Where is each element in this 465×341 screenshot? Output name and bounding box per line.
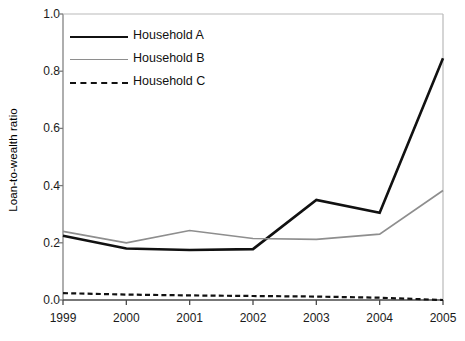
chart-container: Loan-to-wealth ratio 1.0 0.8 0.6 0.4 0.2…	[0, 0, 465, 341]
legend-label-household-b: Household B	[128, 52, 205, 65]
legend-line-icon-household-c	[70, 76, 128, 88]
x-tick-label: 2001	[160, 312, 220, 324]
x-tick-label: 1999	[33, 312, 93, 324]
legend-label-household-a: Household A	[128, 29, 204, 42]
x-tick-label: 2003	[286, 312, 346, 324]
legend-item-household-b: Household B	[70, 47, 205, 70]
legend-label-household-c: Household C	[128, 75, 205, 88]
legend-line-icon-household-b	[70, 53, 128, 65]
y-tick-marks	[58, 14, 63, 300]
x-tick-label: 2005	[413, 312, 465, 324]
x-tick-label: 2002	[223, 312, 283, 324]
legend-line-icon-household-a	[70, 30, 128, 42]
x-tick-label: 2000	[96, 312, 156, 324]
legend-item-household-a: Household A	[70, 24, 205, 47]
x-tick-label: 2004	[350, 312, 410, 324]
x-tick-marks	[63, 300, 443, 305]
legend-item-household-c: Household C	[70, 70, 205, 93]
legend: Household A Household B Household C	[70, 24, 205, 93]
data-series-group	[63, 58, 443, 300]
series-line-household-c	[63, 293, 443, 300]
